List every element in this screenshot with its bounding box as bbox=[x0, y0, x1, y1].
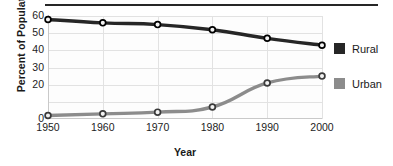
plot-area bbox=[48, 16, 322, 119]
y-tick-label: 60 bbox=[22, 10, 44, 21]
data-point-rural-1990 bbox=[264, 35, 270, 41]
x-tick-label: 1980 bbox=[189, 121, 235, 133]
x-tick-label: 1950 bbox=[25, 121, 71, 133]
x-tick-label: 1970 bbox=[135, 121, 181, 133]
y-axis-tick-labels: 02030405060 bbox=[20, 0, 44, 166]
data-point-rural-2000 bbox=[319, 42, 325, 48]
y-tick-label: 30 bbox=[22, 62, 44, 73]
legend-swatch-icon bbox=[334, 78, 345, 89]
data-point-urban-1960 bbox=[100, 111, 106, 117]
data-point-urban-1980 bbox=[210, 104, 216, 110]
chart-figure: Percent of Population 02030405060 195019… bbox=[0, 0, 393, 166]
series-line-urban bbox=[48, 76, 322, 115]
series-plot bbox=[48, 16, 322, 119]
data-point-rural-1960 bbox=[100, 20, 106, 26]
data-point-rural-1980 bbox=[210, 27, 216, 33]
x-tick-label: 1960 bbox=[80, 121, 126, 133]
series-line-rural bbox=[48, 19, 322, 45]
x-tick-label: 1990 bbox=[244, 121, 290, 133]
y-tick-label: 20 bbox=[22, 79, 44, 90]
gridline-vertical bbox=[322, 16, 323, 119]
data-point-rural-1950 bbox=[45, 17, 51, 23]
legend-label: Rural bbox=[352, 43, 378, 55]
x-tick-label: 2000 bbox=[299, 121, 345, 133]
data-point-rural-1970 bbox=[155, 22, 161, 28]
data-point-urban-1990 bbox=[264, 80, 270, 86]
legend-label: Urban bbox=[352, 78, 382, 90]
data-point-urban-1950 bbox=[45, 113, 51, 119]
x-axis-title: Year bbox=[48, 146, 322, 158]
legend-swatch-icon bbox=[334, 43, 345, 54]
y-tick-label: 40 bbox=[22, 44, 44, 55]
data-point-urban-2000 bbox=[319, 73, 325, 79]
legend-item-rural: Rural bbox=[334, 42, 393, 55]
chart-legend: RuralUrban bbox=[334, 42, 393, 112]
y-tick-label: 50 bbox=[22, 27, 44, 38]
legend-item-urban: Urban bbox=[334, 77, 393, 90]
data-point-urban-1970 bbox=[155, 109, 161, 115]
top-divider-rule bbox=[45, 4, 378, 6]
